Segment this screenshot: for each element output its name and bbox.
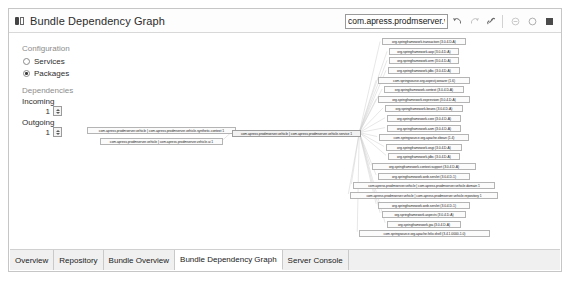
- incoming-label: Incoming: [22, 97, 54, 106]
- link-icon: [486, 16, 497, 27]
- tab-overview[interactable]: Overview: [10, 250, 54, 270]
- tab-bundle-dependency-graph-label: Bundle Dependency Graph: [180, 255, 277, 264]
- graph-node-target-18[interactable]: org.springframework.aspects (3.0.4.D-A): [382, 211, 466, 218]
- graph-node-target-16[interactable]: com.apress.prodmserver.vehicle | com.apr…: [350, 192, 498, 199]
- graph-node-target-10[interactable]: com.springsource.org.apache.xbean (1.4): [379, 134, 469, 141]
- maximize-button[interactable]: [542, 14, 557, 29]
- radio-packages-label: Packages: [34, 69, 69, 78]
- graph-canvas[interactable]: com.apress.prodmserver.vehicle | com.apr…: [78, 34, 560, 249]
- incoming-value: 1: [34, 107, 50, 116]
- incoming-stepper[interactable]: 1: [34, 106, 62, 116]
- graph-node-target-9[interactable]: org.springframework.asm (3.0.4.D-A): [387, 125, 461, 132]
- incoming-stepper-arrows[interactable]: [53, 106, 62, 116]
- graph-node-target-0[interactable]: org.springframework.transaction (3.0.4.D…: [382, 38, 466, 45]
- forward-button[interactable]: [467, 14, 482, 29]
- maximize-icon: [544, 16, 555, 27]
- editor-tabbar: Overview Repository Bundle Overview Bund…: [10, 249, 560, 270]
- zoom-out-button[interactable]: [508, 14, 523, 29]
- radio-services-label: Services: [34, 57, 65, 66]
- graph-node-target-4[interactable]: com.springsource.org.aspectj.weaver (1.6…: [378, 77, 470, 84]
- graph-node-target-12[interactable]: org.springframework.jdbc (3.0.4.D-A): [388, 153, 460, 160]
- radio-option-packages[interactable]: Packages: [23, 69, 69, 78]
- zoom-in-icon: [527, 16, 538, 27]
- graph-node-target-11[interactable]: org.springframework.osgi (3.0.4.D-A): [386, 144, 462, 151]
- graph-node-target-15[interactable]: com.apress.prodmserver.vehicle | com.apr…: [353, 182, 495, 189]
- page-title: Bundle Dependency Graph: [30, 15, 165, 27]
- graph-node-source-1[interactable]: com.apress.prodmserver.vehicle | com.apr…: [100, 138, 223, 145]
- graph-node-target-6[interactable]: org.springframework.expression (3.0.4.D-…: [378, 96, 470, 103]
- graph-node-hub[interactable]: com.apress.prodmserver.vehicle | com.apr…: [232, 130, 361, 137]
- tabbar-filler: [349, 250, 560, 270]
- bundle-dependency-graph-view: Bundle Dependency Graph: [8, 8, 562, 272]
- arrow-forward-icon: [469, 16, 480, 27]
- zoom-out-icon: [510, 16, 521, 27]
- tab-overview-label: Overview: [15, 256, 48, 265]
- outgoing-label: Outgoing: [22, 118, 54, 127]
- view-toolbar: [345, 12, 557, 30]
- graph-node-target-1[interactable]: org.springframework.aop (3.0.4.D-A): [389, 48, 459, 55]
- outgoing-stepper-arrows[interactable]: [53, 127, 62, 137]
- toolbar-separator: [502, 15, 503, 28]
- graph-node-target-19[interactable]: org.springframework.jpa (3.0.4.D-A): [387, 221, 461, 228]
- graph-edge-out-18: [359, 133, 380, 213]
- graph-node-target-13[interactable]: org.springframework.context.support (3.0…: [372, 163, 476, 170]
- configuration-section-label: Configuration: [22, 44, 70, 53]
- tab-bundle-dependency-graph[interactable]: Bundle Dependency Graph: [175, 250, 283, 270]
- arrow-back-icon: [452, 16, 463, 27]
- filter-input[interactable]: [345, 14, 448, 29]
- graph-node-source-0[interactable]: com.apress.prodmserver.vehicle | com.apr…: [87, 127, 236, 134]
- graph-node-target-8[interactable]: org.springframework.core (3.0.4.D-A): [387, 115, 461, 122]
- tab-bundle-overview[interactable]: Bundle Overview: [104, 250, 175, 270]
- back-button[interactable]: [450, 14, 465, 29]
- graph-node-target-2[interactable]: org.springframework.orm (3.0.4.D-A): [389, 57, 459, 64]
- outgoing-stepper[interactable]: 1: [34, 127, 62, 137]
- tab-server-console[interactable]: Server Console: [283, 250, 349, 270]
- link-button[interactable]: [484, 14, 499, 29]
- zoom-in-button[interactable]: [525, 14, 540, 29]
- configuration-panel: Configuration Services Packages Dependen…: [10, 34, 78, 249]
- graph-node-target-5[interactable]: org.springframework.context (3.0.4.D-A): [384, 86, 464, 93]
- view-titlebar: Bundle Dependency Graph: [9, 9, 561, 33]
- graph-node-target-7[interactable]: org.springframework.beans (3.0.4.D-A): [385, 105, 463, 112]
- outgoing-value: 1: [34, 128, 50, 137]
- graph-node-target-20[interactable]: com.springsource.org.apache.felix.shell …: [359, 230, 490, 237]
- tab-repository-label: Repository: [59, 256, 97, 265]
- bundle-graph-icon: [15, 16, 25, 26]
- tab-server-console-label: Server Console: [288, 256, 343, 265]
- radio-packages-mark[interactable]: [23, 70, 30, 77]
- tab-bundle-overview-label: Bundle Overview: [109, 256, 169, 265]
- radio-services-mark[interactable]: [23, 58, 30, 65]
- graph-node-target-14[interactable]: org.springframework.web.servlet (3.0.4.D…: [378, 173, 470, 180]
- graph-node-target-17[interactable]: org.springframework.web.servlet (3.0.4.D…: [378, 202, 470, 209]
- tab-repository[interactable]: Repository: [54, 250, 103, 270]
- dependencies-section-label: Dependencies: [22, 86, 73, 95]
- graph-node-target-3[interactable]: org.springframework.jdbc (3.0.4.D-A): [388, 67, 460, 74]
- graph-edge-out-4: [359, 80, 376, 133]
- radio-option-services[interactable]: Services: [23, 57, 65, 66]
